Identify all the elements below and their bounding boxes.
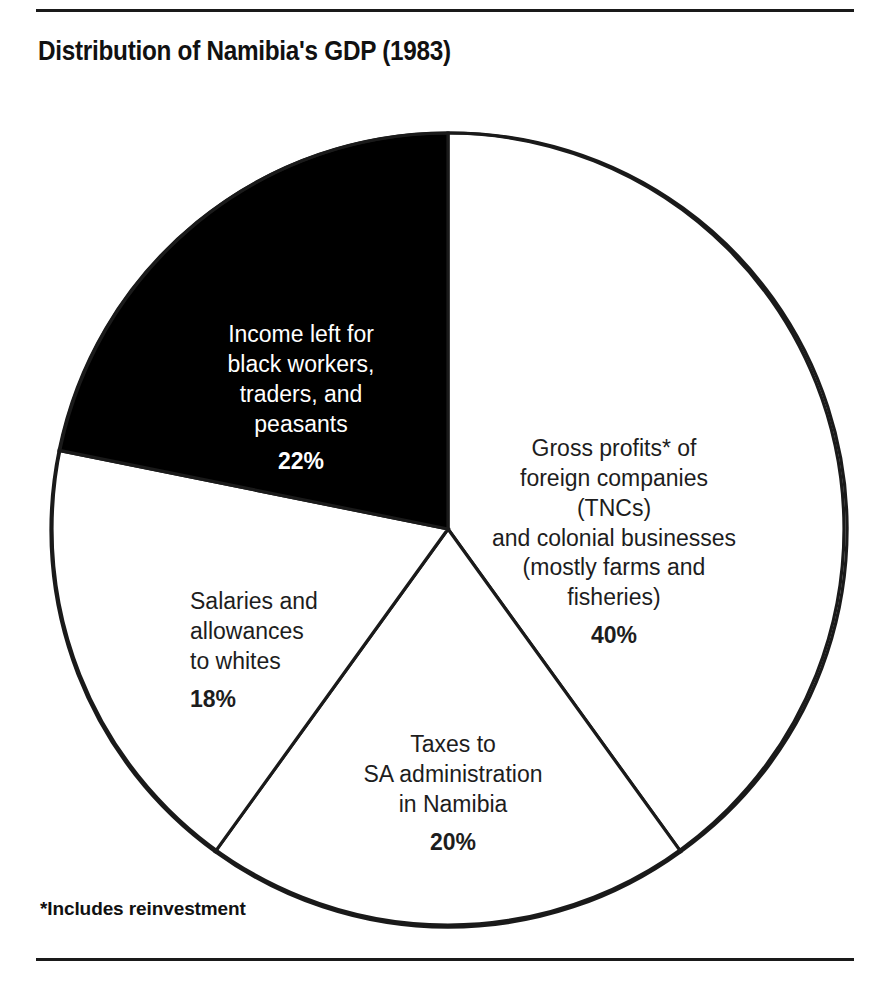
slice-label-profits: Gross profits* of foreign companies (TNC… [482,404,746,681]
slice-label-taxes-text: Taxes to SA administration in Namibia [364,731,543,817]
chart-page: Distribution of Namibia's GDP (1983) Gro… [0,0,890,998]
slice-value-salaries: 18% [190,685,370,715]
slice-value-income: 22% [186,447,416,477]
footnote: *Includes reinvestment [40,898,246,920]
slice-label-taxes: Taxes to SA administration in Namibia 20… [338,700,568,887]
slice-value-profits: 40% [482,621,746,651]
slice-label-income: Income left for black workers, traders, … [186,290,416,507]
slice-label-salaries: Salaries and allowances to whites 18% [190,557,370,744]
slice-value-taxes: 20% [338,828,568,858]
bottom-divider-rule [36,958,854,961]
slice-label-profits-text: Gross profits* of foreign companies (TNC… [492,435,736,610]
slice-label-salaries-text: Salaries and allowances to whites [190,588,318,674]
slice-label-income-text: Income left for black workers, traders, … [228,321,375,437]
